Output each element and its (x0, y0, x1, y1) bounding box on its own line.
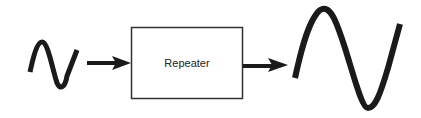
output-arrow (243, 58, 288, 72)
input-signal-wave (30, 42, 77, 87)
repeater-label: Repeater (131, 27, 243, 99)
output-signal-wave (295, 9, 400, 108)
input-arrow (87, 56, 131, 70)
